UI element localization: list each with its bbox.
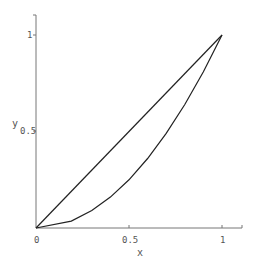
x-tick-label-0: 0: [34, 235, 39, 245]
x-tick-label-05: 0.5: [122, 235, 138, 245]
y-tick-label-05: 0.5: [20, 126, 36, 136]
x-tick-label-1: 1: [220, 235, 225, 245]
y-tick-label-1: 1: [27, 30, 32, 40]
series-line-y-equals-x: [36, 35, 222, 228]
chart: 1 0.5 y 0 0.5 1 x: [0, 0, 255, 269]
x-axis-label: x: [137, 247, 143, 258]
y-axis-label: y: [12, 118, 18, 129]
